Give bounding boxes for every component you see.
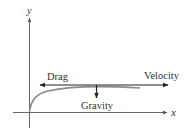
projectile-force-diagram: y x Drag Velocity Gravity (0, 0, 186, 135)
gravity-label: Gravity (81, 100, 114, 111)
x-axis-label: x (170, 106, 176, 118)
velocity-label: Velocity (144, 70, 180, 81)
y-axis-label: y (26, 5, 32, 16)
drag-label: Drag (47, 71, 69, 82)
